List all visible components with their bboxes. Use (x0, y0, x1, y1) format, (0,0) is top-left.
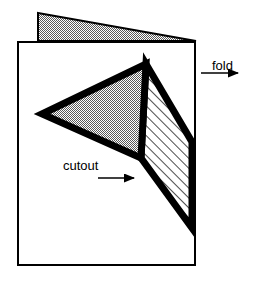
fold-label: fold (212, 58, 233, 73)
fold-callout: fold (201, 58, 238, 73)
back-flap-wedge (38, 13, 196, 41)
folded-card-diagram: fold cutout (0, 0, 258, 283)
diagram-canvas: fold cutout (0, 0, 258, 283)
cutout-label: cutout (63, 158, 99, 173)
